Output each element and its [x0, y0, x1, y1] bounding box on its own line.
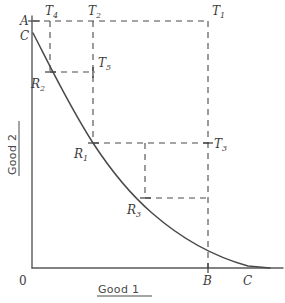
label-R3: R 3 [126, 203, 141, 219]
y-axis-title-group: Good 2 [6, 121, 19, 176]
label-B-marker: B [202, 274, 212, 288]
point-tick-marks [45, 67, 213, 273]
label-T3-subscript: 3 [222, 144, 227, 153]
label-T3: T 3 [214, 137, 227, 153]
label-A-marker: A [19, 14, 29, 28]
label-R2-subscript: 2 [39, 84, 45, 93]
label-R3-base: R [126, 203, 136, 217]
production-possibility-frontier [33, 33, 270, 268]
label-T2-subscript: 2 [95, 11, 101, 20]
label-T5: T 5 [98, 56, 111, 72]
label-R3-subscript: 3 [136, 210, 141, 219]
label-R1-subscript: 1 [83, 154, 88, 163]
label-R2: R 2 [30, 77, 45, 93]
label-T1: T 1 [212, 4, 225, 20]
axes-group [32, 16, 283, 268]
x-axis-title-group: Good 1 [97, 283, 152, 296]
label-C-intercept-marker: C [20, 29, 29, 43]
label-T2: T 2 [88, 4, 101, 20]
point-labels-group: T 4 T 2 T 1 T 5 T 3 R 2 R [30, 4, 227, 219]
label-C-axis-marker: C [243, 274, 252, 288]
label-T4-subscript: 4 [52, 11, 58, 20]
label-origin: 0 [19, 274, 27, 288]
dashed-construction-lines [33, 21, 210, 268]
axis-marker-labels-group: A C B C 0 [19, 14, 252, 288]
y-axis-title: Good 2 [6, 134, 19, 175]
label-T4: T 4 [45, 4, 58, 20]
label-R2-base: R [30, 77, 40, 91]
label-T1-subscript: 1 [220, 11, 225, 20]
label-R1-base: R [73, 147, 83, 161]
label-R1: R 1 [73, 147, 88, 163]
ppf-diagram: T 4 T 2 T 1 T 5 T 3 R 2 R [0, 0, 285, 303]
frontier-curve-group [33, 33, 270, 268]
label-T5-subscript: 5 [106, 63, 111, 72]
x-axis-title: Good 1 [98, 283, 139, 296]
